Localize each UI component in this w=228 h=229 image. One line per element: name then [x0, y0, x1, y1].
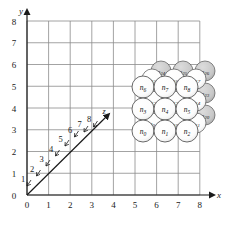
y-tick-7: 7 [12, 38, 17, 48]
y-tick-3: 3 [12, 125, 17, 135]
y-tick-labels: 0 1 2 3 4 5 6 7 8 [12, 17, 17, 201]
x-tick-1: 1 [46, 200, 51, 210]
sphere-n2[interactable]: n2 [176, 120, 198, 142]
y-axis-label: y [18, 6, 23, 16]
sphere-n4[interactable]: n4 [154, 98, 176, 120]
x-tick-7: 7 [176, 200, 181, 210]
lattice-figure: y x z 0 1 2 3 4 5 6 7 8 0 1 2 3 4 5 6 7 … [0, 0, 228, 229]
y-tick-4: 4 [12, 104, 17, 114]
z-tick-3: 3 [39, 154, 43, 164]
y-tick-5: 5 [12, 82, 17, 92]
x-tick-6: 6 [154, 200, 159, 210]
sphere-n8[interactable]: n8 [176, 76, 198, 98]
z-tick-7: 7 [77, 119, 81, 129]
sphere-n0[interactable]: n0 [132, 120, 154, 142]
x-tick-3: 3 [90, 200, 95, 210]
y-tick-1: 1 [12, 169, 17, 179]
y-tick-2: 2 [12, 147, 17, 157]
x-axis-label: x [216, 190, 221, 200]
z-tick-1: 1 [21, 174, 25, 184]
x-tick-8: 8 [198, 200, 203, 210]
z-tick-5: 5 [58, 134, 62, 144]
z-tick-6: 6 [68, 125, 72, 135]
x-tick-2: 2 [68, 200, 73, 210]
sphere-n5[interactable]: n5 [176, 98, 198, 120]
sphere-n3[interactable]: n3 [132, 98, 154, 120]
x-tick-4: 4 [111, 200, 116, 210]
z-tick-2: 2 [30, 164, 34, 174]
sphere-n6[interactable]: n6 [132, 76, 154, 98]
x-tick-5: 5 [133, 200, 138, 210]
sphere-n7[interactable]: n7 [154, 76, 176, 98]
y-tick-8: 8 [12, 17, 17, 27]
sphere-n1[interactable]: n1 [154, 120, 176, 142]
sphere-layer-middle: n15 n16 n17 n12 n13 n14 n9 n10 [142, 69, 206, 133]
sphere-layer-front: n6 n7 n8 n3 n4 n5 n0 n1 [132, 76, 198, 142]
z-tick-8: 8 [87, 114, 91, 124]
coordinate-diagram: y x z 0 1 2 3 4 5 6 7 8 0 1 2 3 4 5 6 7 … [0, 0, 228, 229]
y-tick-6: 6 [12, 60, 17, 70]
x-tick-0: 0 [25, 200, 30, 210]
y-tick-0: 0 [12, 191, 17, 201]
